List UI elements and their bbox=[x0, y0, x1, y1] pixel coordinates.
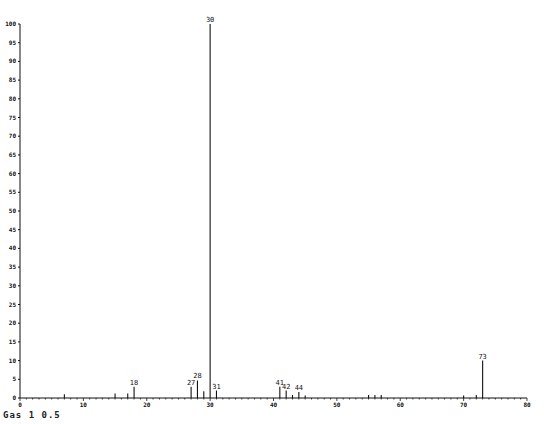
y-tick-label: 45 bbox=[9, 226, 17, 233]
peak-label: 30 bbox=[206, 16, 214, 24]
x-tick-label: 70 bbox=[460, 401, 468, 408]
x-tick-label: 10 bbox=[80, 401, 88, 408]
y-tick-label: 50 bbox=[9, 207, 17, 214]
y-tick-label: 55 bbox=[9, 188, 17, 195]
y-tick-label: 95 bbox=[9, 39, 17, 46]
y-tick-label: 0 bbox=[12, 394, 16, 401]
x-tick-label: 30 bbox=[207, 401, 215, 408]
y-tick-label: 90 bbox=[9, 57, 17, 64]
mass-spectrum-chart: 0510152025303540455055606570758085909510… bbox=[0, 0, 544, 424]
peak-label: 44 bbox=[295, 384, 303, 392]
y-tick-label: 85 bbox=[9, 76, 17, 83]
peak-label: 31 bbox=[212, 383, 220, 391]
peak-label: 18 bbox=[130, 379, 138, 387]
x-tick-label: 20 bbox=[143, 401, 151, 408]
y-tick-label: 30 bbox=[9, 282, 17, 289]
peak-label: 73 bbox=[478, 353, 486, 361]
y-tick-label: 80 bbox=[9, 95, 17, 102]
axes: 0510152025303540455055606570758085909510… bbox=[5, 20, 531, 408]
y-tick-label: 100 bbox=[5, 20, 16, 27]
y-tick-label: 5 bbox=[12, 375, 16, 382]
y-tick-label: 75 bbox=[9, 114, 17, 121]
x-tick-label: 80 bbox=[523, 401, 531, 408]
y-tick-label: 10 bbox=[9, 357, 17, 364]
y-tick-label: 20 bbox=[9, 319, 17, 326]
peaks: 182728303141424473 bbox=[64, 16, 486, 398]
y-tick-label: 40 bbox=[9, 244, 17, 251]
peak-label: 28 bbox=[193, 372, 201, 380]
x-tick-label: 0 bbox=[18, 401, 22, 408]
x-tick-label: 50 bbox=[333, 401, 341, 408]
y-tick-label: 65 bbox=[9, 151, 17, 158]
y-tick-label: 70 bbox=[9, 132, 17, 139]
x-tick-label: 40 bbox=[270, 401, 278, 408]
y-tick-label: 15 bbox=[9, 338, 17, 345]
y-tick-label: 60 bbox=[9, 170, 17, 177]
x-tick-label: 60 bbox=[397, 401, 405, 408]
footer-label: Gas 1 0.5 bbox=[3, 410, 61, 420]
y-tick-label: 35 bbox=[9, 263, 17, 270]
peak-label: 42 bbox=[282, 383, 290, 391]
y-tick-label: 25 bbox=[9, 301, 17, 308]
